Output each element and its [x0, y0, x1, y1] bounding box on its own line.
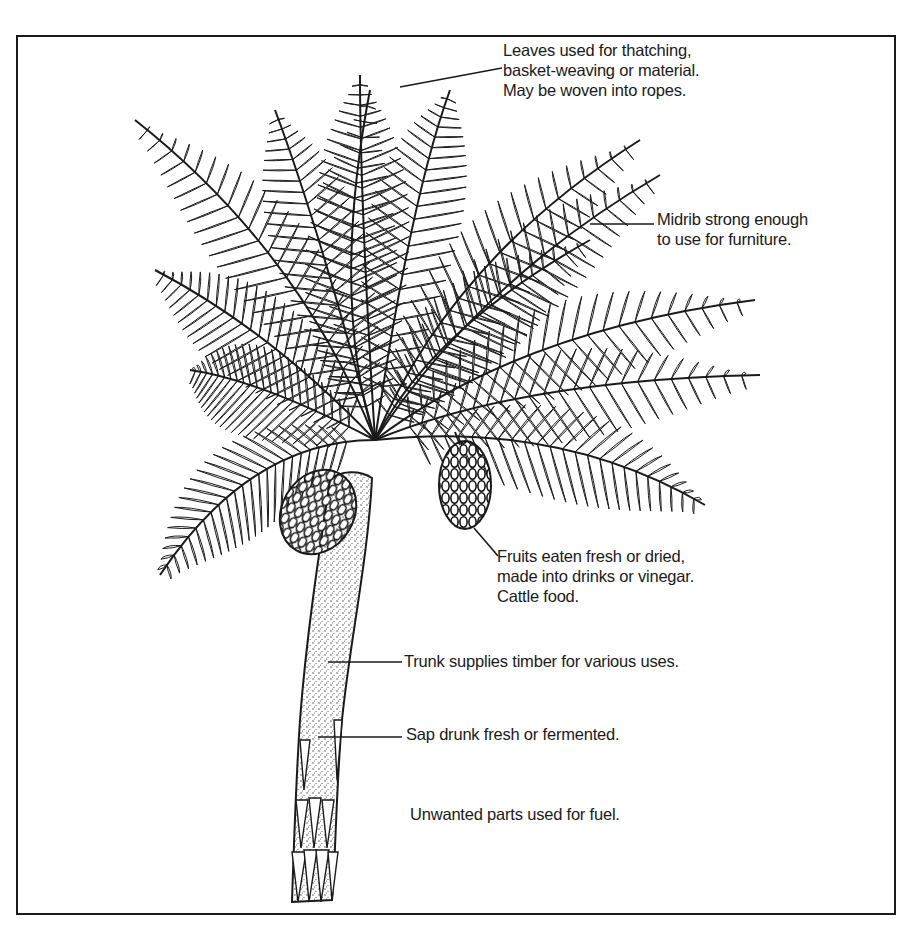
leader-fruits — [474, 528, 498, 556]
annotation-leaves: Leaves used for thatching, basket-weavin… — [503, 40, 699, 100]
annotation-sap: Sap drunk fresh or fermented. — [406, 724, 619, 744]
leader-leaves — [400, 68, 502, 87]
annotation-midrib: Midrib strong enough to use for furnitur… — [657, 209, 808, 249]
annotation-fruits: Fruits eaten fresh or dried, made into d… — [497, 546, 694, 606]
leader-lines — [318, 68, 654, 737]
annotation-trunk: Trunk supplies timber for various uses. — [404, 651, 679, 671]
annotation-fuel: Unwanted parts used for fuel. — [410, 804, 620, 824]
palm-tree-illustration — [0, 0, 920, 941]
fruit-cluster-right — [439, 432, 491, 529]
